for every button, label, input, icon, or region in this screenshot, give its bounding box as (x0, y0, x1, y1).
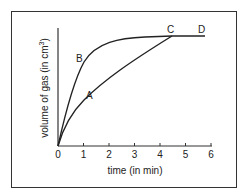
x-tick-1: 1 (81, 149, 87, 160)
x-tick-6: 6 (208, 149, 214, 160)
chart-svg: 0 1 2 3 4 5 6 time (in min) volume of ga… (0, 0, 248, 196)
x-tick-3: 3 (132, 149, 138, 160)
x-tick-0: 0 (55, 149, 61, 160)
x-tick-5: 5 (183, 149, 189, 160)
x-tick-4: 4 (157, 149, 163, 160)
label-d: D (198, 24, 205, 35)
x-tick-2: 2 (106, 149, 112, 160)
x-axis-label: time (in min) (107, 165, 162, 176)
label-b: B (76, 53, 83, 64)
y-axis-label: volume of gas (in cm3) (38, 38, 50, 138)
label-c: C (167, 24, 174, 35)
label-a: A (86, 90, 93, 101)
x-tick-labels: 0 1 2 3 4 5 6 (55, 149, 214, 160)
